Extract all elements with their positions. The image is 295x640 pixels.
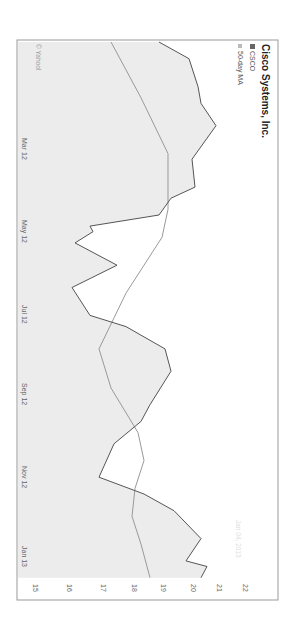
date-tick-label: Mar 12 (21, 138, 28, 160)
date-tick-label: May 12 (20, 220, 28, 243)
date-stamp: Jan 04, 2013 (235, 520, 242, 558)
date-tick-label: Sep 12 (20, 383, 28, 405)
legend-csco-swatch (250, 44, 255, 49)
date-tick-label: Jan 13 (21, 546, 28, 567)
price-tick-label: 22 (242, 584, 249, 592)
credit-text: © Yahoo! (35, 44, 42, 71)
price-tick-label: 19 (160, 584, 167, 592)
date-tick-label: Jul 12 (21, 305, 28, 324)
price-tick-label: 17 (100, 584, 107, 592)
date-tick-label: Nov 12 (21, 466, 28, 488)
legend-ma-label: 50-day MA (236, 51, 244, 85)
chart-stage: 1516171819202122 Mar 12May 12Jul 12Sep 1… (0, 0, 295, 640)
chart-title: Cisco Systems, Inc. (260, 44, 271, 138)
legend-csco-label: CSCO (249, 51, 256, 72)
price-tick-label: 21 (216, 584, 223, 592)
price-tick-label: 16 (66, 584, 73, 592)
price-tick-label: 18 (131, 584, 138, 592)
legend-ma-swatch (238, 44, 242, 48)
price-tick-label: 20 (190, 584, 197, 592)
price-tick-label: 15 (32, 584, 39, 592)
